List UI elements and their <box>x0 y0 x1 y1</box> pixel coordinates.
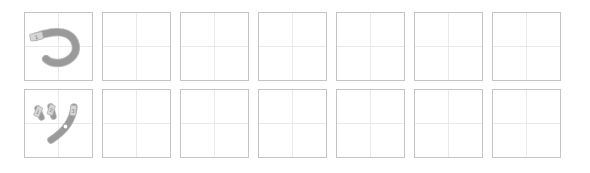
practice-cell-r0-c2[interactable] <box>180 12 249 81</box>
practice-cell-r1-c2[interactable] <box>180 89 249 158</box>
practice-cell-r1-c6[interactable] <box>492 89 561 158</box>
practice-cell-r1-c4[interactable] <box>336 89 405 158</box>
practice-row-katakana-tsu: 1 2 3 <box>24 89 576 158</box>
practice-cell-r0-c1[interactable] <box>102 12 171 81</box>
practice-cell-r0-c4[interactable] <box>336 12 405 81</box>
stroke-direction-dot-3 <box>64 125 68 129</box>
guide-line-vertical <box>214 13 215 80</box>
guide-line-horizontal <box>415 46 482 47</box>
practice-cell-r0-c3[interactable] <box>258 12 327 81</box>
stroke-marker-3: 3 <box>70 105 77 116</box>
guide-line-horizontal <box>103 46 170 47</box>
practice-cell-r1-c5[interactable] <box>414 89 483 158</box>
guide-line-horizontal <box>493 123 560 124</box>
practice-cell-r1-c1[interactable] <box>102 89 171 158</box>
guide-line-vertical <box>292 90 293 157</box>
kana-practice-worksheet: 1 <box>0 0 590 173</box>
guide-line-vertical <box>214 90 215 157</box>
guide-line-vertical <box>526 13 527 80</box>
glyph-hiragana-tsu: 1 <box>25 13 92 80</box>
practice-row-hiragana-tsu: 1 <box>24 12 576 81</box>
guide-line-horizontal <box>493 46 560 47</box>
model-cell-katakana-tsu[interactable]: 1 2 3 <box>24 89 93 158</box>
guide-line-vertical <box>136 90 137 157</box>
guide-line-horizontal <box>259 46 326 47</box>
guide-line-vertical <box>292 13 293 80</box>
guide-line-horizontal <box>181 123 248 124</box>
guide-line-vertical <box>136 13 137 80</box>
guide-line-horizontal <box>103 123 170 124</box>
model-cell-hiragana-tsu[interactable]: 1 <box>24 12 93 81</box>
practice-cell-r0-c6[interactable] <box>492 12 561 81</box>
glyph-katakana-tsu: 1 2 3 <box>25 90 92 157</box>
stroke-marker-1: 1 <box>29 32 43 42</box>
guide-line-horizontal <box>415 123 482 124</box>
guide-line-vertical <box>526 90 527 157</box>
guide-line-horizontal <box>181 46 248 47</box>
guide-line-horizontal <box>337 123 404 124</box>
guide-line-horizontal <box>337 46 404 47</box>
guide-line-vertical <box>448 90 449 157</box>
practice-cell-r0-c5[interactable] <box>414 12 483 81</box>
practice-cell-r1-c3[interactable] <box>258 89 327 158</box>
guide-line-vertical <box>370 13 371 80</box>
guide-line-vertical <box>370 90 371 157</box>
guide-line-vertical <box>448 13 449 80</box>
guide-line-horizontal <box>259 123 326 124</box>
